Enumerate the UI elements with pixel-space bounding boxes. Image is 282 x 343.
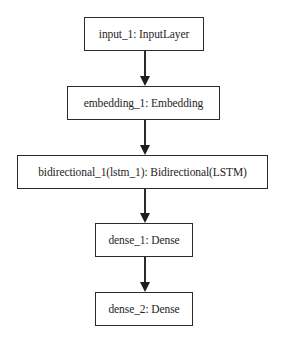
arrow-down-icon [140,282,150,292]
arrow-down-icon [140,213,150,223]
arrow-down-icon [140,76,150,86]
edge-line [144,51,146,77]
node-label: bidirectional_1(lstm_1): Bidirectional(L… [38,166,247,178]
arrow-down-icon [140,145,150,155]
edge-line [144,189,146,214]
node-input-layer: input_1: InputLayer [84,17,204,51]
edge-line [144,120,146,146]
node-embedding: embedding_1: Embedding [67,86,220,120]
node-label: embedding_1: Embedding [84,97,204,109]
node-label: dense_2: Dense [108,303,179,315]
node-bidirectional-lstm: bidirectional_1(lstm_1): Bidirectional(L… [17,155,268,189]
model-diagram: input_1: InputLayer embedding_1: Embeddi… [0,0,282,343]
node-dense-2: dense_2: Dense [95,292,193,326]
node-label: dense_1: Dense [108,234,179,246]
node-dense-1: dense_1: Dense [95,223,193,257]
edge-line [144,257,146,283]
node-label: input_1: InputLayer [99,28,189,40]
